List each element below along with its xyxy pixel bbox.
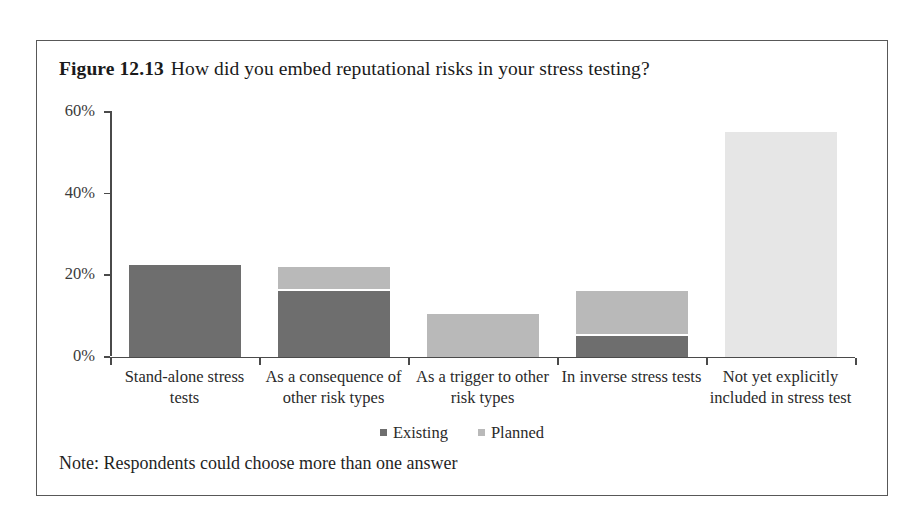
bar-segment-planned[interactable] <box>725 132 837 357</box>
category-label: Not yet explicitly included in stress te… <box>706 366 855 408</box>
x-tick-mark <box>408 358 410 365</box>
chart-legend: ExistingPlanned <box>37 423 887 443</box>
figure-title: Figure 12.13How did you embed reputation… <box>59 58 650 80</box>
figure-number: Figure 12.13 <box>59 58 164 79</box>
legend-swatch-icon <box>380 429 387 436</box>
bar-segment-planned[interactable] <box>278 267 390 292</box>
x-tick-mark <box>110 358 112 365</box>
bar-group[interactable] <box>278 267 390 357</box>
y-tick-mark: 40% <box>104 193 110 195</box>
bar-group[interactable] <box>129 265 241 357</box>
y-axis-line <box>110 111 112 356</box>
figure-question: How did you embed reputational risks in … <box>171 58 650 79</box>
y-tick-label: 40% <box>65 182 95 202</box>
legend-item-existing[interactable]: Existing <box>380 423 448 443</box>
category-label: In inverse stress tests <box>557 366 706 387</box>
x-axis-line <box>110 357 855 359</box>
bar-segment-planned[interactable] <box>576 291 688 336</box>
category-label: Stand-alone stress tests <box>110 366 259 408</box>
bar-segment-existing[interactable] <box>576 336 688 356</box>
y-tick-mark: 20% <box>104 274 110 276</box>
category-label: As a consequence of other risk types <box>259 366 408 408</box>
y-tick-label: 60% <box>65 101 95 121</box>
legend-label: Existing <box>393 423 448 443</box>
y-tick-label: 20% <box>65 264 95 284</box>
category-label: As a trigger to other risk types <box>408 366 557 408</box>
figure-note: Note: Respondents could choose more than… <box>59 453 457 474</box>
bar-group[interactable] <box>576 291 688 356</box>
y-tick-label: 0% <box>73 346 95 366</box>
y-tick-mark: 60% <box>104 111 110 113</box>
bar-segment-existing[interactable] <box>278 291 390 356</box>
legend-swatch-icon <box>478 429 485 436</box>
chart-plot-area: 0%20%40%60% <box>110 103 855 358</box>
figure-panel: Figure 12.13How did you embed reputation… <box>36 40 888 496</box>
legend-item-planned[interactable]: Planned <box>478 423 544 443</box>
x-tick-mark <box>259 358 261 365</box>
bar-group[interactable] <box>725 132 837 357</box>
bar-segment-planned[interactable] <box>427 314 539 357</box>
x-tick-mark <box>706 358 708 365</box>
bar-group[interactable] <box>427 314 539 357</box>
x-tick-mark <box>557 358 559 365</box>
legend-label: Planned <box>491 423 544 443</box>
x-tick-mark <box>855 358 857 365</box>
bar-segment-existing[interactable] <box>129 265 241 357</box>
